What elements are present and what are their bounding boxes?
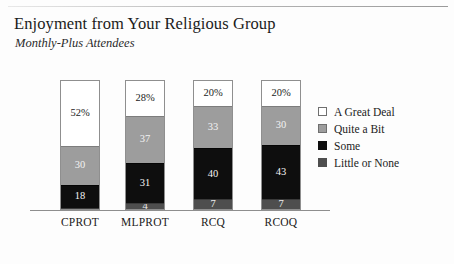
segment-some: 40 bbox=[194, 148, 232, 199]
legend-item-quite-a-bit[interactable]: Quite a Bit bbox=[318, 121, 399, 136]
segment-quite-a-bit: 33 bbox=[194, 106, 232, 148]
legend-swatch-icon bbox=[318, 124, 327, 133]
legend-label: Quite a Bit bbox=[334, 123, 384, 135]
chart-page: Enjoyment from Your Religious Group Mont… bbox=[0, 0, 454, 264]
legend-item-some[interactable]: Some bbox=[318, 138, 399, 153]
segment-quite-a-bit: 37 bbox=[126, 116, 164, 163]
x-tick-label-rcoq: RCOQ bbox=[233, 216, 329, 228]
segment-a-great-deal: 20% bbox=[194, 81, 232, 106]
legend-swatch-icon bbox=[318, 107, 327, 116]
segment-little-or-none: 7 bbox=[194, 199, 232, 209]
legend-label: A Great Deal bbox=[334, 106, 395, 118]
segment-some: 31 bbox=[126, 163, 164, 203]
segment-a-great-deal: 28% bbox=[126, 81, 164, 116]
stacked-bar-rcq[interactable]: 20% 33 40 7 bbox=[193, 80, 233, 210]
segment-quite-a-bit: 30 bbox=[262, 106, 300, 145]
segment-quite-a-bit: 30 bbox=[61, 146, 99, 185]
legend-label: Some bbox=[334, 140, 360, 152]
legend: A Great Deal Quite a Bit Some Little or … bbox=[318, 104, 399, 172]
legend-swatch-icon bbox=[318, 158, 327, 167]
segment-some: 18 bbox=[61, 185, 99, 209]
segment-a-great-deal: 20% bbox=[262, 81, 300, 106]
segment-little-or-none bbox=[61, 208, 99, 209]
x-axis-line bbox=[30, 210, 330, 211]
plot-area: 52% 30 18 28% 37 31 4 20% 33 40 7 20% 30… bbox=[0, 0, 454, 264]
segment-some: 43 bbox=[262, 145, 300, 200]
stacked-bar-cprot[interactable]: 52% 30 18 bbox=[60, 80, 100, 210]
segment-a-great-deal: 52% bbox=[61, 81, 99, 146]
stacked-bar-rcoq[interactable]: 20% 30 43 7 bbox=[261, 80, 301, 210]
segment-little-or-none: 7 bbox=[262, 199, 300, 209]
segment-little-or-none: 4 bbox=[126, 203, 164, 209]
legend-label: Little or None bbox=[334, 157, 399, 169]
legend-item-a-great-deal[interactable]: A Great Deal bbox=[318, 104, 399, 119]
legend-swatch-icon bbox=[318, 141, 327, 150]
legend-item-little-or-none[interactable]: Little or None bbox=[318, 155, 399, 170]
stacked-bar-mlprot[interactable]: 28% 37 31 4 bbox=[125, 80, 165, 210]
